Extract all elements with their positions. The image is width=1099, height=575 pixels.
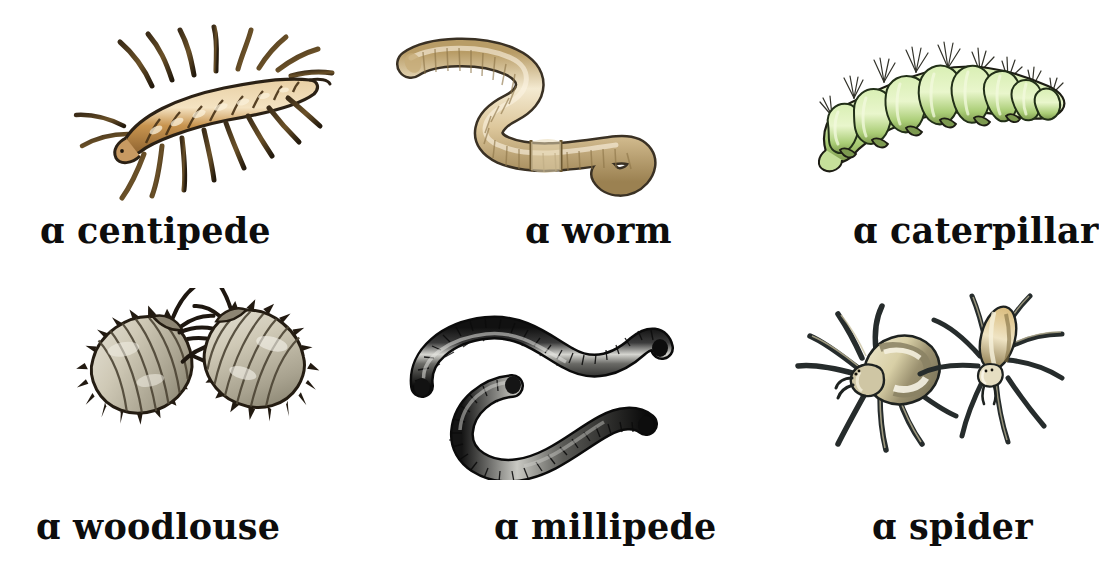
label-centipede: ɑ centipede <box>40 213 271 248</box>
label-woodlouse: ɑ woodlouse <box>36 509 280 544</box>
label-millipede: ɑ millipede <box>494 509 717 544</box>
centipede-illustration <box>48 18 348 208</box>
label-worm: ɑ worm <box>525 213 672 248</box>
worm-illustration <box>385 22 665 202</box>
label-spider: ɑ spider <box>872 509 1033 544</box>
millipede-illustration <box>392 290 682 480</box>
woodlouse-illustration <box>58 288 328 438</box>
spider-illustration <box>780 292 1080 472</box>
caterpillar-illustration <box>810 32 1080 177</box>
label-caterpillar: ɑ caterpillar <box>853 213 1099 248</box>
